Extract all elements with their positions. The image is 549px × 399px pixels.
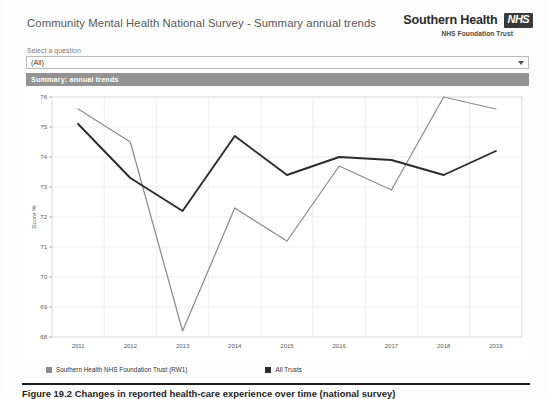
- legend-item-all-trusts[interactable]: All Trusts: [265, 366, 301, 373]
- x-tick-label: 2018: [437, 343, 451, 349]
- figure-caption: Figure 19.2 Changes in reported health-c…: [22, 388, 542, 399]
- chevron-down-icon[interactable]: [518, 61, 524, 65]
- x-tick-label: 2015: [280, 343, 294, 349]
- brand-row: Southern Health NHS: [403, 13, 533, 28]
- x-tick-label: 2014: [228, 343, 242, 349]
- brand-block: Southern Health NHS NHS Foundation Trust: [403, 13, 533, 37]
- legend-label-southern: Southern Health NHS Foundation Trust (RW…: [56, 366, 187, 373]
- legend-swatch-southern: [46, 367, 52, 373]
- legend-swatch-all-trusts: [265, 367, 271, 373]
- section-header-bar: Summary: annual trends: [26, 73, 529, 86]
- chart-panel: 686970717273747576 201120122013201420152…: [26, 89, 529, 359]
- y-tick-label: 75: [40, 124, 47, 130]
- page-header: Community Mental Health National Survey …: [0, 0, 549, 45]
- page-title: Community Mental Health National Survey …: [27, 17, 376, 29]
- y-axis-ticks: 686970717273747576: [40, 94, 52, 340]
- y-tick-label: 70: [40, 274, 47, 280]
- brand-name: Southern Health: [403, 13, 497, 27]
- x-tick-label: 2017: [385, 343, 399, 349]
- nhs-logo: NHS: [504, 13, 533, 28]
- x-tick-label: 2016: [333, 343, 347, 349]
- y-tick-label: 69: [40, 304, 47, 310]
- x-tick-label: 2011: [72, 343, 86, 349]
- y-tick-label: 73: [40, 184, 47, 190]
- x-tick-label: 2012: [124, 343, 138, 349]
- select-question-dropdown[interactable]: (All): [26, 56, 529, 69]
- y-tick-label: 71: [40, 244, 47, 250]
- page-root: Community Mental Health National Survey …: [0, 0, 549, 399]
- x-tick-label: 2019: [489, 343, 503, 349]
- select-question-value: (All): [27, 58, 44, 67]
- chart-legend: Southern Health NHS Foundation Trust (RW…: [46, 366, 380, 373]
- brand-subtitle: NHS Foundation Trust: [403, 30, 513, 37]
- y-tick-label: 68: [40, 334, 47, 340]
- section-header-label: Summary: annual trends: [26, 75, 119, 84]
- line-chart: 686970717273747576 201120122013201420152…: [26, 89, 529, 359]
- legend-item-southern[interactable]: Southern Health NHS Foundation Trust (RW…: [46, 366, 187, 373]
- y-tick-label: 74: [40, 154, 47, 160]
- legend-label-all-trusts: All Trusts: [275, 366, 301, 373]
- x-axis-ticks: 201120122013201420152016201720182019: [72, 343, 504, 349]
- x-tick-label: 2013: [176, 343, 190, 349]
- y-tick-label: 76: [40, 94, 47, 100]
- y-tick-label: 72: [40, 214, 47, 220]
- select-question-label: Select a question: [27, 47, 81, 54]
- caption-divider: [22, 383, 530, 385]
- y-axis-label: Score %: [30, 205, 37, 229]
